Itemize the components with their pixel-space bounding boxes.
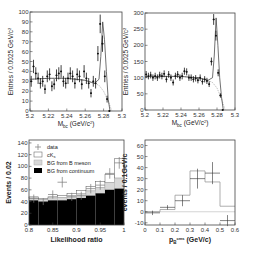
background-curve: [30, 78, 112, 111]
x-tick-label: 0.4: [201, 227, 210, 233]
y-tick-label: 50: [137, 154, 144, 160]
y-tick-label: 60: [21, 187, 28, 193]
y-axis-label: events / 0.1GeV/c: [121, 154, 128, 212]
x-tick-label: 0.5: [216, 227, 225, 233]
y-tick-label: 50: [22, 59, 29, 65]
legend: datacKsBG from B mesonBG from continuum: [34, 144, 95, 174]
y-tick-label: 100: [133, 75, 144, 81]
bar-bg-continuum: [86, 196, 96, 225]
bar-bg-continuum: [67, 199, 77, 225]
x-tick-label: 5.24: [175, 112, 187, 118]
x-tick-label: 0.6: [231, 227, 240, 233]
y-tick-label: 150: [133, 59, 144, 65]
x-tick-label: 5.22: [157, 112, 169, 118]
x-tick-label: 5.26: [79, 113, 91, 119]
x-tick-label: 5.28: [211, 112, 223, 118]
y-tick-label: 80: [22, 29, 29, 35]
y-tick-label: 40: [21, 199, 28, 205]
legend-label-ck: cKs: [47, 152, 55, 159]
y-tick-label: 80: [21, 175, 28, 181]
y-tick-label: 140: [17, 140, 28, 146]
x-tick-label: 5.28: [98, 113, 110, 119]
legend-label-bg-continuum: BG from continuum: [47, 168, 95, 174]
x-tick-label: 5.22: [43, 113, 55, 119]
y-tick-label: 0: [140, 209, 144, 215]
fit-curve: [30, 22, 110, 111]
x-tick-label: 0.1: [156, 227, 165, 233]
y-tick-label: -10: [135, 220, 144, 226]
x-tick-label: 5.24: [61, 113, 73, 119]
bar-ck: [58, 196, 68, 198]
y-tick-label: 10: [137, 198, 144, 204]
x-tick-label: 1: [122, 227, 126, 233]
bar-bg-continuum: [29, 200, 39, 225]
y-axis-label: Events / 0.02: [5, 161, 12, 204]
x-axis-label: Mbc (GeV/c2): [58, 120, 95, 129]
bar-bg-bmeson: [58, 197, 68, 200]
y-axis-label: Entries / 0.0025 GeV/c2: [7, 27, 14, 95]
y-tick-label: 20: [22, 88, 29, 94]
x-tick-label: 0.85: [47, 227, 59, 233]
legend-label-data: data: [47, 144, 59, 150]
y-tick-label: 100: [18, 9, 29, 15]
y-axis-label: Entries / 0.0025 GeV/c2: [122, 27, 129, 95]
panel-mbc-right: 5.25.225.245.265.285.3050100150200250300…: [122, 10, 240, 128]
y-tick-label: 60: [137, 143, 144, 149]
x-tick-label: 0.2: [171, 227, 180, 233]
panel-likelihood: 0.80.850.90.951020406080100120140datacKs…: [5, 140, 126, 243]
y-tick-label: 20: [21, 210, 28, 216]
y-tick-label: 40: [22, 68, 29, 74]
bar-bg-continuum: [58, 200, 68, 225]
y-tick-label: 250: [133, 26, 144, 32]
bar-bg-continuum: [77, 198, 87, 225]
y-tick-label: 30: [22, 78, 29, 84]
bar-bg-continuum: [105, 190, 115, 225]
x-axis-label: pBcms (GeV/c): [169, 236, 211, 245]
y-tick-label: 20: [137, 187, 144, 193]
x-tick-label: 0.9: [72, 227, 81, 233]
x-axis-label: Likelihood ratio: [50, 236, 102, 243]
x-axis-label: Mbc (GeV/c2): [172, 119, 209, 128]
x-tick-label: 5.3: [231, 112, 240, 118]
bar-bg-continuum: [96, 193, 106, 225]
bar-bg-continuum: [48, 200, 58, 225]
x-tick-label: 0.95: [94, 227, 106, 233]
y-tick-label: 10: [22, 98, 29, 104]
y-tick-label: 100: [17, 163, 28, 169]
expectation-histogram: [145, 171, 235, 212]
background-curve: [145, 76, 225, 110]
x-tick-label: 5.26: [193, 112, 205, 118]
x-tick-label: 5.3: [118, 113, 127, 119]
panel-momentum: 00.10.20.30.40.50.6-100102030405060event…: [121, 140, 240, 245]
panel-mbc-left: 5.25.225.245.265.285.3010203040506070809…: [7, 9, 127, 129]
y-tick-label: 30: [137, 176, 144, 182]
x-tick-label: 0.3: [186, 227, 195, 233]
chart-mbc-left: 5.25.225.245.265.285.3010203040506070809…: [0, 0, 255, 256]
y-tick-label: 40: [137, 165, 144, 171]
x-tick-label: 0: [143, 227, 147, 233]
y-tick-label: 200: [133, 42, 144, 48]
y-tick-label: 50: [137, 91, 144, 97]
y-tick-label: 60: [22, 49, 29, 55]
bar-bg-bmeson: [105, 183, 115, 190]
y-tick-label: 90: [22, 19, 29, 25]
y-tick-label: 70: [22, 39, 29, 45]
legend-label-bg-bmeson: BG from B meson: [47, 160, 91, 166]
y-tick-label: 120: [17, 152, 28, 158]
figure: 5.25.225.245.265.285.3010203040506070809…: [0, 0, 255, 256]
y-tick-label: 300: [133, 10, 144, 16]
